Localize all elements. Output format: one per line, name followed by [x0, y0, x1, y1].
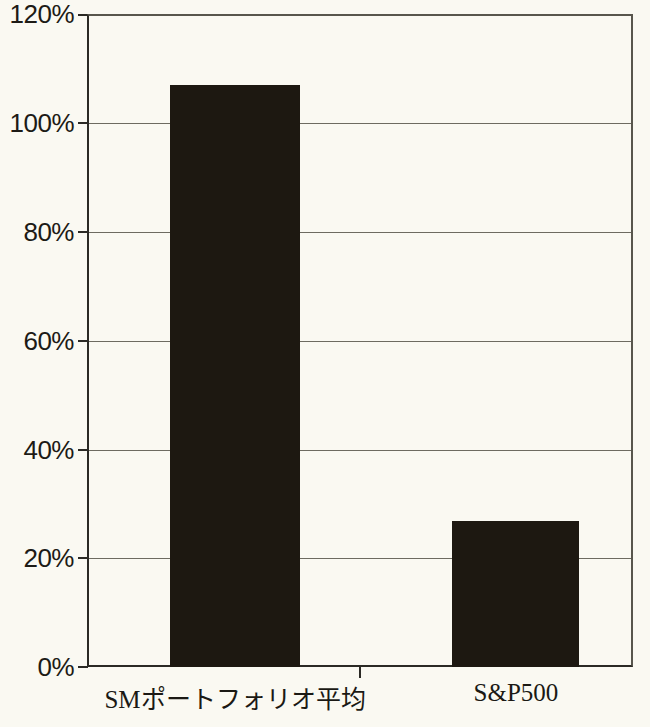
category-label-sp500: S&P500 — [474, 679, 559, 707]
bar-chart: 120% 100% 80% 60% 40% 20% 0% SMポートフォリオ平均… — [0, 0, 650, 727]
ytick-label-0: 0% — [37, 652, 74, 683]
ytick-label-100: 100% — [10, 108, 75, 139]
plot-area — [87, 14, 633, 667]
ytick-label-60: 60% — [23, 326, 74, 357]
bar-sp500 — [452, 521, 579, 667]
ytick-label-120: 120% — [10, 0, 75, 30]
ytick-label-40: 40% — [23, 435, 74, 466]
xtick-mark-category-divider — [359, 667, 361, 678]
ytick-label-80: 80% — [23, 217, 74, 248]
category-label-sm-portfolio-average: SMポートフォリオ平均 — [104, 679, 365, 715]
bar-sm-portfolio-average — [170, 85, 300, 667]
ytick-label-20: 20% — [23, 543, 74, 574]
